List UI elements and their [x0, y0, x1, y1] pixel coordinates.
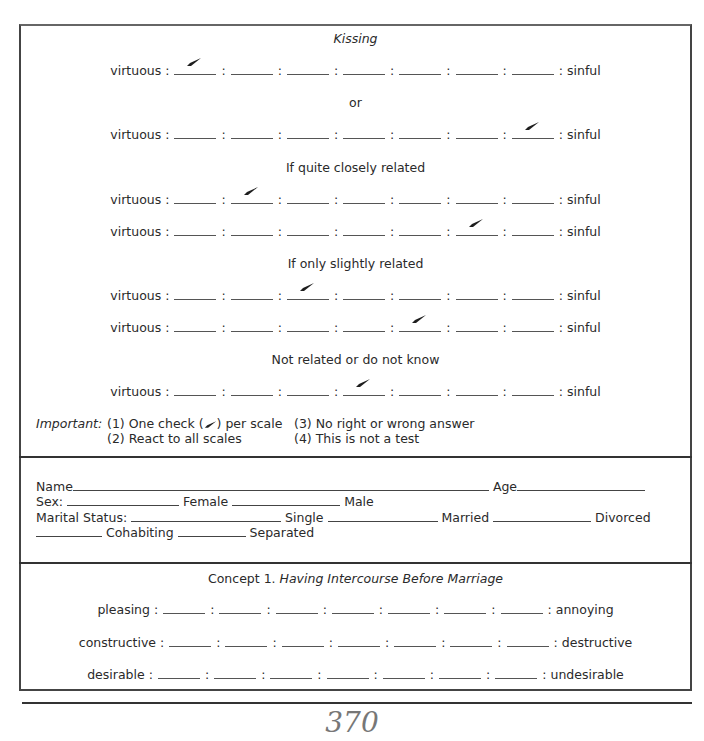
- scale-blank-4[interactable]: [343, 384, 385, 396]
- scale-blank-5[interactable]: [399, 127, 441, 139]
- scale-blank-6[interactable]: [456, 63, 498, 75]
- scale-blank-2[interactable]: [231, 224, 273, 236]
- scale-blank-2[interactable]: [231, 288, 273, 300]
- semantic-scale[interactable]: virtuous::::::::sinful: [19, 127, 692, 142]
- right-anchor: undesirable: [550, 667, 623, 682]
- scale-blank-7[interactable]: [507, 635, 549, 647]
- scale-blank-5[interactable]: [394, 635, 436, 647]
- scale-blank-1[interactable]: [169, 635, 211, 647]
- separator: :: [386, 320, 398, 335]
- scale-blank-7[interactable]: [512, 127, 554, 139]
- scale-blank-5[interactable]: [399, 192, 441, 204]
- scale-blank-3[interactable]: [270, 667, 312, 679]
- separator: :: [274, 384, 286, 399]
- married-field[interactable]: [328, 511, 438, 522]
- scale-blank-4[interactable]: [327, 667, 369, 679]
- age-field[interactable]: [517, 480, 645, 491]
- scale-blank-6[interactable]: [456, 127, 498, 139]
- scale-blank-1[interactable]: [158, 667, 200, 679]
- scale-blank-7[interactable]: [512, 320, 554, 332]
- female-field[interactable]: [67, 495, 179, 506]
- scale-blank-1[interactable]: [174, 288, 216, 300]
- single-field[interactable]: [131, 511, 281, 522]
- semantic-scale[interactable]: virtuous::::::::sinful: [19, 63, 692, 78]
- scale-blank-7[interactable]: [512, 384, 554, 396]
- scale-blank-3[interactable]: [287, 192, 329, 204]
- scale-blank-3[interactable]: [282, 635, 324, 647]
- page-rule: [22, 702, 692, 704]
- separator: :: [274, 63, 286, 78]
- scale-blank-3[interactable]: [287, 224, 329, 236]
- male-field[interactable]: [232, 495, 340, 506]
- scale-blank-1[interactable]: [163, 602, 205, 614]
- scale-blank-3[interactable]: [287, 384, 329, 396]
- scale-blank-4[interactable]: [343, 192, 385, 204]
- scale-blank-6[interactable]: [456, 224, 498, 236]
- scale-blank-7[interactable]: [501, 602, 543, 614]
- scale-blank-5[interactable]: [399, 384, 441, 396]
- scale-blank-6[interactable]: [456, 384, 498, 396]
- scale-blank-5[interactable]: [388, 602, 430, 614]
- separator: :: [442, 288, 454, 303]
- scale-blank-4[interactable]: [332, 602, 374, 614]
- semantic-scale[interactable]: virtuous::::::::sinful: [19, 192, 692, 207]
- scale-blank-4[interactable]: [343, 320, 385, 332]
- scale-blank-3[interactable]: [287, 127, 329, 139]
- scale-blank-6[interactable]: [456, 320, 498, 332]
- scale-blank-4[interactable]: [343, 63, 385, 75]
- concept-scale[interactable]: desirable::::::::undesirable: [19, 667, 692, 682]
- scale-blank-5[interactable]: [399, 63, 441, 75]
- scale-blank-4[interactable]: [343, 224, 385, 236]
- scale-blank-5[interactable]: [399, 320, 441, 332]
- separator: :: [217, 63, 229, 78]
- scale-blank-6[interactable]: [439, 667, 481, 679]
- separator: :: [431, 602, 443, 617]
- divorced-field[interactable]: [493, 511, 591, 522]
- scale-blank-2[interactable]: [214, 667, 256, 679]
- scale-blank-1[interactable]: [174, 63, 216, 75]
- scale-blank-4[interactable]: [343, 127, 385, 139]
- scale-blank-3[interactable]: [287, 320, 329, 332]
- scale-blank-6[interactable]: [450, 635, 492, 647]
- scale-blank-2[interactable]: [219, 602, 261, 614]
- scale-blank-1[interactable]: [174, 192, 216, 204]
- separator: :: [274, 320, 286, 335]
- concept-scale[interactable]: pleasing::::::::annoying: [19, 602, 692, 617]
- scale-blank-1[interactable]: [174, 127, 216, 139]
- scale-blank-2[interactable]: [231, 127, 273, 139]
- separated-field[interactable]: [178, 526, 246, 537]
- semantic-scale[interactable]: virtuous::::::::sinful: [19, 320, 692, 335]
- semantic-scale[interactable]: virtuous::::::::sinful: [19, 224, 692, 239]
- scale-blank-5[interactable]: [399, 224, 441, 236]
- semantic-scale[interactable]: virtuous::::::::sinful: [19, 384, 692, 399]
- concept-scale[interactable]: constructive::::::::destructive: [19, 635, 692, 650]
- scale-blank-7[interactable]: [512, 192, 554, 204]
- scale-blank-6[interactable]: [456, 192, 498, 204]
- scale-blank-6[interactable]: [444, 602, 486, 614]
- scale-blank-3[interactable]: [287, 63, 329, 75]
- scale-blank-4[interactable]: [338, 635, 380, 647]
- scale-blank-2[interactable]: [231, 63, 273, 75]
- scale-blank-7[interactable]: [512, 288, 554, 300]
- scale-blank-2[interactable]: [231, 320, 273, 332]
- scale-blank-2[interactable]: [231, 384, 273, 396]
- scale-blank-7[interactable]: [512, 224, 554, 236]
- scale-blank-7[interactable]: [495, 667, 537, 679]
- scale-blank-1[interactable]: [174, 320, 216, 332]
- scale-blank-2[interactable]: [231, 192, 273, 204]
- scale-blank-6[interactable]: [456, 288, 498, 300]
- scale-blank-3[interactable]: [287, 288, 329, 300]
- scale-blank-4[interactable]: [343, 288, 385, 300]
- scale-blank-5[interactable]: [383, 667, 425, 679]
- scale-blank-2[interactable]: [225, 635, 267, 647]
- scale-blank-7[interactable]: [512, 63, 554, 75]
- scale-blank-3[interactable]: [276, 602, 318, 614]
- scale-blank-1[interactable]: [174, 224, 216, 236]
- separator: :: [206, 602, 218, 617]
- name-field[interactable]: [73, 480, 489, 491]
- cohabiting-field[interactable]: [36, 526, 102, 537]
- check-mark-icon: [243, 186, 259, 196]
- scale-blank-5[interactable]: [399, 288, 441, 300]
- semantic-scale[interactable]: virtuous::::::::sinful: [19, 288, 692, 303]
- scale-blank-1[interactable]: [174, 384, 216, 396]
